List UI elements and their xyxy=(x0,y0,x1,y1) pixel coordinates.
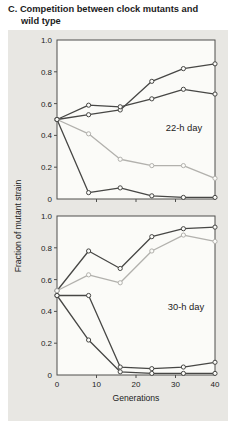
competition-line-chart: 1.00.80.60.40.2022-h day1.00.80.60.40.20… xyxy=(8,30,228,421)
x-tick-label: 0 xyxy=(55,380,60,389)
data-marker xyxy=(55,293,59,297)
data-marker xyxy=(150,194,154,198)
data-marker xyxy=(150,367,154,371)
y-tick-label: 0 xyxy=(48,371,53,380)
y-tick-label: 0.8 xyxy=(41,244,53,253)
figure-title-line2: wild type xyxy=(8,16,232,28)
data-marker xyxy=(213,195,217,199)
data-marker xyxy=(181,365,185,369)
data-marker xyxy=(87,338,91,342)
y-axis-label: Fraction of mutant strain xyxy=(13,179,23,272)
y-tick-label: 0.2 xyxy=(41,339,53,348)
data-marker xyxy=(181,164,185,168)
figure-title-line1: C. Competition between clock mutants and xyxy=(8,4,198,14)
data-marker xyxy=(181,233,185,237)
data-marker xyxy=(213,225,217,229)
data-marker xyxy=(55,289,59,293)
data-marker xyxy=(181,371,185,375)
data-marker xyxy=(213,62,217,66)
data-marker xyxy=(213,360,217,364)
data-marker xyxy=(118,365,122,369)
data-marker xyxy=(150,249,154,253)
data-marker xyxy=(150,371,154,375)
y-tick-label: 0.4 xyxy=(41,307,53,316)
x-tick-label: 40 xyxy=(211,380,220,389)
y-tick-label: 0 xyxy=(48,195,53,204)
data-marker xyxy=(213,92,217,96)
chart-box: 1.00.80.60.40.2022-h day1.00.80.60.40.20… xyxy=(8,30,228,421)
figure-title: C. Competition between clock mutants and… xyxy=(8,4,232,27)
data-marker xyxy=(213,239,217,243)
x-tick-label: 20 xyxy=(132,380,141,389)
y-tick-label: 0.6 xyxy=(41,276,53,285)
data-marker xyxy=(118,281,122,285)
data-marker xyxy=(181,87,185,91)
data-marker xyxy=(118,370,122,374)
data-marker xyxy=(87,249,91,253)
data-marker xyxy=(87,132,91,136)
data-marker xyxy=(213,371,217,375)
data-marker xyxy=(118,157,122,161)
data-marker xyxy=(118,266,122,270)
y-tick-label: 0.4 xyxy=(41,131,53,140)
data-marker xyxy=(87,191,91,195)
data-marker xyxy=(213,176,217,180)
data-marker xyxy=(150,79,154,83)
panel-30-h day: 1.00.80.60.40.2030-h day xyxy=(41,212,217,380)
data-marker xyxy=(87,293,91,297)
y-tick-label: 0.2 xyxy=(41,163,53,172)
y-tick-label: 0.6 xyxy=(41,100,53,109)
data-marker xyxy=(118,186,122,190)
x-tick-label: 10 xyxy=(92,380,101,389)
panel-22-h day: 1.00.80.60.40.2022-h day xyxy=(41,36,217,204)
data-marker xyxy=(118,105,122,109)
y-tick-label: 0.8 xyxy=(41,68,53,77)
data-marker xyxy=(181,195,185,199)
data-marker xyxy=(150,97,154,101)
x-axis-label: Generations xyxy=(113,393,160,403)
data-marker xyxy=(150,164,154,168)
data-marker xyxy=(87,273,91,277)
y-tick-label: 1.0 xyxy=(41,212,53,221)
x-tick-label: 30 xyxy=(171,380,180,389)
y-tick-label: 1.0 xyxy=(41,36,53,45)
panel-label: 30-h day xyxy=(168,301,205,312)
data-marker xyxy=(181,227,185,231)
data-marker xyxy=(181,67,185,71)
data-marker xyxy=(150,235,154,239)
data-marker xyxy=(55,117,59,121)
data-marker xyxy=(87,103,91,107)
panel-label: 22-h day xyxy=(166,122,203,133)
data-marker xyxy=(87,113,91,117)
